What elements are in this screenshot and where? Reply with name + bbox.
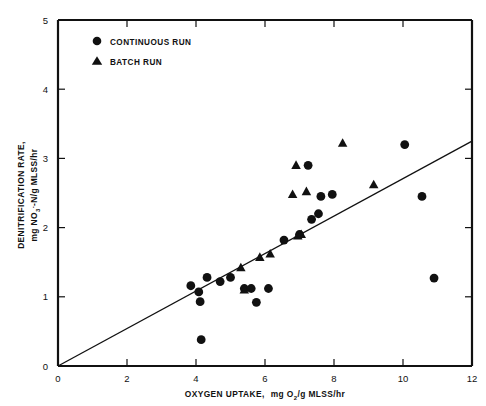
data-point-continuous-18 — [400, 140, 409, 149]
y-axis-title-line1: DENITRIFICATION RATE, — [16, 141, 26, 249]
chart-legend: CONTINUOUS RUN BATCH RUN — [92, 37, 192, 67]
x-tick-label-12: 12 — [467, 373, 478, 384]
y-tick-label-5: 5 — [43, 15, 48, 26]
y-tick-label-1: 1 — [43, 291, 48, 302]
legend-label-batch-run: BATCH RUN — [110, 58, 162, 67]
x-tick-label-2: 2 — [124, 373, 129, 384]
y-tick-label-3: 3 — [43, 153, 48, 164]
y-axis-title-line2-post: -N/g MLSS/hr — [29, 148, 39, 206]
y-axis-title-line2: mg NO3--N/g MLSS/hr — [29, 148, 41, 241]
x-axis: 024681012 — [55, 20, 477, 384]
regression-line-segment — [58, 141, 472, 366]
x-tick-label-6: 6 — [262, 373, 267, 384]
y-tick-label-4: 4 — [43, 84, 48, 95]
x-axis-title-main: OXYGEN UPTAKE, — [185, 389, 265, 399]
data-point-continuous-16 — [328, 190, 337, 199]
data-point-continuous-19 — [418, 192, 427, 201]
data-point-batch-6 — [288, 189, 298, 198]
data-point-continuous-14 — [314, 209, 323, 218]
data-points-layer — [186, 138, 438, 344]
x-axis-title-unit-post: /g MLSS/hr — [297, 389, 345, 399]
data-point-batch-2 — [255, 252, 265, 261]
legend-marker-batch-run — [92, 56, 102, 65]
denitrification-vs-oxygen-uptake-chart: 012345 024681012 CONTINUOUS RUN BATCH RU… — [0, 0, 486, 406]
data-point-continuous-9 — [252, 298, 261, 307]
y-tick-label-2: 2 — [43, 222, 48, 233]
data-point-continuous-4 — [197, 335, 206, 344]
data-point-continuous-3 — [203, 273, 212, 282]
data-point-continuous-10 — [264, 284, 273, 293]
y-axis: 012345 — [43, 15, 472, 372]
data-point-continuous-13 — [307, 215, 316, 224]
x-axis-title-unit-pre: mg O — [271, 389, 294, 399]
data-point-continuous-17 — [304, 161, 313, 170]
data-point-continuous-2 — [196, 297, 205, 306]
data-point-batch-8 — [302, 187, 312, 196]
x-axis-title: OXYGEN UPTAKE,mg O2/g MLSS/hr — [185, 389, 346, 401]
data-point-continuous-5 — [216, 277, 225, 286]
regression-line — [58, 141, 472, 366]
data-point-batch-9 — [338, 138, 348, 147]
data-point-continuous-0 — [186, 281, 195, 290]
data-point-batch-7 — [291, 160, 301, 169]
data-point-continuous-15 — [316, 192, 325, 201]
x-tick-label-10: 10 — [398, 373, 409, 384]
plot-frame — [58, 20, 472, 366]
legend-marker-continuous-run — [93, 37, 102, 46]
legend-label-continuous-run: CONTINUOUS RUN — [110, 38, 191, 47]
chart-canvas: 012345 024681012 CONTINUOUS RUN BATCH RU… — [0, 0, 486, 406]
data-point-continuous-6 — [226, 273, 235, 282]
data-point-batch-10 — [369, 180, 379, 189]
x-tick-label-0: 0 — [55, 373, 60, 384]
x-tick-label-4: 4 — [193, 373, 198, 384]
y-tick-label-0: 0 — [43, 361, 48, 372]
y-axis-title-line2-pre: mg NO — [29, 212, 39, 242]
data-point-continuous-8 — [247, 284, 256, 293]
series-continuous-run — [186, 140, 438, 344]
data-point-continuous-20 — [430, 274, 439, 283]
data-point-batch-1 — [236, 263, 246, 272]
x-tick-label-8: 8 — [331, 373, 336, 384]
data-point-continuous-1 — [194, 288, 203, 297]
y-axis-title: DENITRIFICATION RATE, mg NO3--N/g MLSS/h… — [16, 141, 41, 249]
data-point-continuous-11 — [280, 236, 289, 245]
